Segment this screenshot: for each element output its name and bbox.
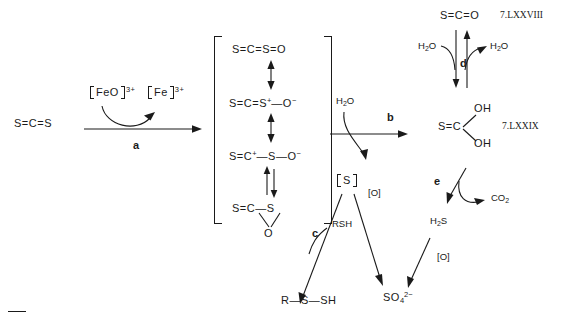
charge-minus-o: −	[292, 96, 296, 105]
cos-formula: S=C=O	[440, 10, 479, 21]
water-subscript: 2	[343, 100, 347, 107]
oxidation-left-arrow-line	[354, 194, 380, 278]
resonance-arrow-2-head-down	[267, 134, 274, 143]
product-sulfate: SO42−	[383, 291, 413, 304]
co2-subscript: 2	[505, 197, 509, 204]
thiocarbonic-acid-oh-top: OH	[474, 103, 492, 114]
step-d-water-out-curve-path	[465, 48, 481, 70]
step-d-water-out-curve	[463, 46, 489, 72]
step-a-curved-arrowhead	[144, 112, 155, 121]
reaction-scheme-canvas: S=C=S FeO3+ Fe3+ a S=C=S=O S=C=S+—O−	[0, 0, 563, 322]
oxidation-right-arrowhead	[407, 276, 414, 288]
step-d-product-water: H2O	[490, 41, 508, 52]
thiocarbonic-acid-oh-bottom: OH	[474, 138, 492, 149]
ring-bond-s-o	[271, 213, 280, 227]
charge-plus-c: +	[252, 149, 256, 158]
oxidation-left-arrowhead	[375, 274, 383, 286]
resonance-equilibrium-arrow	[262, 166, 280, 198]
resonance-structure-4-oxygen: O	[264, 228, 273, 239]
step-b-curved-arrow	[344, 112, 364, 154]
step-e-label: e	[434, 176, 440, 187]
substrate-formula-cs2: S=C=S	[14, 118, 52, 129]
step-d-reactant-water: H2O	[418, 41, 436, 52]
feo-bracket: FeO	[90, 86, 125, 99]
resonance-bracket-left	[214, 36, 222, 224]
oxidation-right-arrow-line	[411, 238, 430, 280]
oxidation-right-label: [O]	[437, 252, 450, 262]
resonance-arrow-2	[264, 113, 278, 143]
step-c-arrow-line	[303, 194, 342, 296]
resonance-structure-3: S=C+—S—O−	[229, 150, 301, 162]
resonance-arrow-1-head-down	[267, 81, 274, 90]
oxidation-right-arrow	[404, 238, 444, 292]
equilibrium-arrow-down-head	[271, 190, 278, 198]
resonance-arrow-2-head-up	[267, 113, 274, 122]
footer-rule	[8, 311, 26, 312]
compound-id-thiocarbonic-acid: 7.LXXIX	[502, 122, 539, 132]
step-e-arrow-group	[446, 168, 504, 214]
step-a-arrowhead	[192, 125, 202, 133]
atom-c: C	[29, 117, 37, 129]
atom-s-left: S	[14, 117, 22, 129]
sulfur-intermediate-bracket: S	[337, 174, 357, 187]
step-d-up-arrowhead	[464, 30, 471, 39]
step-b-reactant-water: H2O	[336, 96, 354, 107]
step-b-label: b	[387, 112, 394, 123]
resonance-arrow-1-head-up	[267, 60, 274, 69]
water-out-subscript: 2	[497, 45, 501, 52]
step-a-label: a	[133, 140, 139, 151]
step-a-arrow-group	[84, 104, 204, 142]
fe-bracket: Fe	[148, 86, 174, 99]
ring-bond-c-o	[259, 213, 269, 227]
product-carbon-dioxide: CO2	[491, 193, 509, 204]
charge-minus-o2: −	[297, 149, 301, 158]
step-e-co2-arrowhead	[474, 198, 485, 205]
step-d-water-out-arrowhead	[477, 46, 487, 54]
step-d-water-in-curve-path	[441, 46, 455, 70]
sulfur-intermediate: S	[337, 174, 357, 187]
thiocarbonic-acid-core: S=C	[438, 121, 461, 132]
oxidation-left-label: [O]	[368, 188, 381, 198]
water-in-subscript: 2	[425, 45, 429, 52]
equilibrium-arrow-up-head	[264, 166, 271, 174]
step-b-arrow-group	[330, 110, 416, 166]
h2s-subscript: 2	[437, 220, 441, 227]
step-d-down-arrowhead	[453, 79, 460, 88]
fe-charge: 3+	[175, 85, 185, 94]
product-hydrogen-sulfide: H2S	[430, 216, 447, 227]
product-perthiol: R—S—SH	[281, 295, 337, 306]
step-c-reactant-thiol: RSH	[332, 219, 352, 229]
bond-c-oh-top	[463, 115, 476, 127]
step-d-label: d	[460, 58, 467, 69]
feo-charge: 3+	[126, 85, 136, 94]
resonance-structure-2: S=C=S+—O−	[229, 97, 296, 109]
resonance-structure-1: S=C=S=O	[232, 44, 286, 55]
charge-plus-s: +	[267, 96, 271, 105]
bond-double: =	[22, 117, 29, 129]
step-b-arrowhead	[398, 130, 408, 138]
atom-s-right: S	[44, 117, 52, 129]
step-e-main-arrowhead	[447, 192, 454, 204]
step-a-curved-cofactor-arrow	[102, 106, 150, 126]
compound-id-cos: 7.LXXVIII	[500, 11, 543, 21]
resonance-arrow-1	[264, 60, 278, 90]
cofactor-feo-label: FeO3+	[90, 86, 135, 99]
step-c-label: c	[312, 228, 318, 239]
step-e-main-arrow-line	[450, 168, 466, 196]
cofactor-fe-label: Fe3+	[148, 86, 184, 99]
